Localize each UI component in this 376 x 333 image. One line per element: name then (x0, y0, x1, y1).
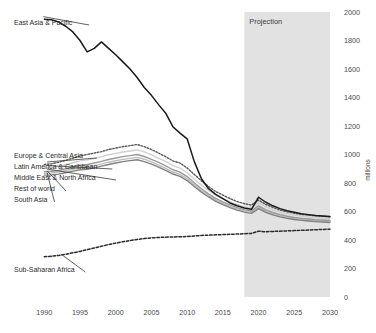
poverty-trend-line-chart: Projection East Asia & PacificEurope & C… (0, 0, 376, 333)
series-label-rest-of-world: Rest of world (14, 185, 55, 192)
series-label-sub-saharan-africa: Sub-Saharan Africa (14, 266, 75, 273)
projection-band (244, 12, 330, 297)
x-tick-label-2020: 2020 (251, 308, 267, 317)
y-tick-label-2000: 2000 (344, 8, 360, 17)
y-tick-label-1200: 1200 (344, 122, 360, 131)
y-tick-label-1400: 1400 (344, 93, 360, 102)
y-tick-label-600: 600 (344, 207, 356, 216)
y-tick-label-800: 800 (344, 179, 356, 188)
series-label-south-asia: South Asia (14, 196, 48, 203)
y-tick-label-200: 200 (344, 264, 356, 273)
x-tick-label-2015: 2015 (215, 308, 231, 317)
y-tick-label-1800: 1800 (344, 36, 360, 45)
series-label-east-asia-pacific: East Asia & Pacific (14, 19, 73, 26)
chart-container: Projection East Asia & PacificEurope & C… (0, 0, 376, 333)
series-label-latin-america-caribbean: Latin America & Caribbean (14, 163, 97, 170)
x-tick-label-2000: 2000 (108, 308, 124, 317)
x-axis: 199019952000200520102015202020252030 (36, 308, 338, 317)
series-label-europe-central-asia: Europe & Central Asia (14, 152, 83, 160)
y-tick-label-0: 0 (344, 293, 348, 302)
y-axis-title: millions (364, 159, 371, 180)
y-tick-label-1600: 1600 (344, 65, 360, 74)
x-tick-label-2005: 2005 (143, 308, 159, 317)
x-tick-label-2030: 2030 (322, 308, 338, 317)
x-tick-label-1995: 1995 (72, 308, 88, 317)
x-tick-label-2025: 2025 (286, 308, 302, 317)
series-label-middle-east-north-africa: Middle East & North Africa (14, 174, 96, 181)
projection-band-rect (244, 12, 330, 297)
y-tick-label-1000: 1000 (344, 150, 360, 159)
x-tick-label-1990: 1990 (36, 308, 52, 317)
projection-label: Projection (249, 17, 282, 26)
y-tick-label-400: 400 (344, 236, 356, 245)
x-tick-label-2010: 2010 (179, 308, 195, 317)
